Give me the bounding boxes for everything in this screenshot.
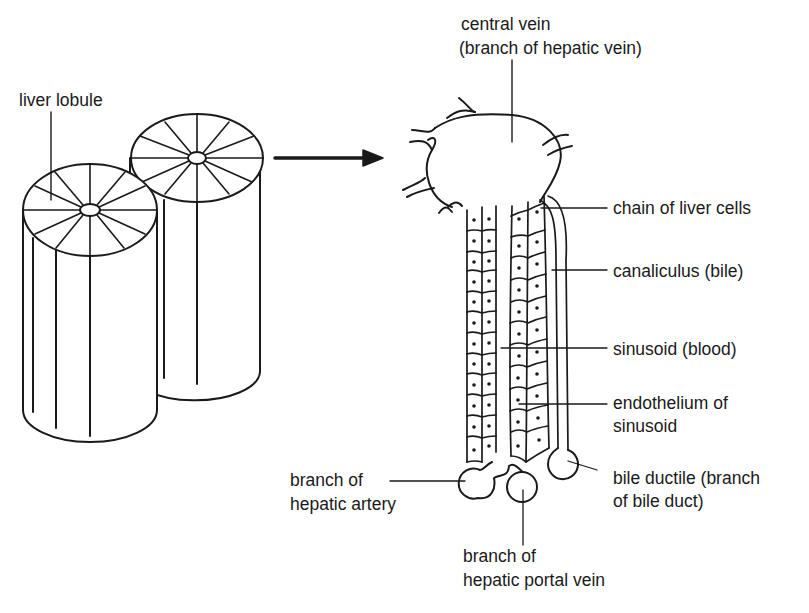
central-vein-label: central vein [461, 14, 551, 35]
canaliculus-label: canaliculus (bile) [613, 261, 743, 282]
endothelium-label: endothelium of [613, 393, 728, 414]
central-vein-sublabel: (branch of hepatic vein) [459, 38, 642, 59]
central-vein [403, 98, 572, 213]
sinusoid-label: sinusoid (blood) [613, 339, 737, 360]
arrow-right-icon [275, 150, 383, 166]
liver-lobule-label: liver lobule [19, 90, 103, 111]
front-lobule-cylinder [23, 164, 157, 442]
endothelium-sublabel: sinusoid [613, 416, 677, 437]
bile-ductile-leader-line [568, 461, 597, 470]
bile-ductile-circle [548, 448, 578, 479]
right-cell-chain [510, 196, 549, 462]
hepatic-artery-sublabel: hepatic artery [290, 494, 396, 515]
bile-ductile-sublabel: of bile duct) [613, 491, 703, 512]
portal-vein-sublabel: hepatic portal vein [463, 570, 605, 591]
portal-vein-label: branch of [463, 546, 536, 567]
left-cell-chain [467, 206, 496, 462]
hepatic-portal-vein-branch [507, 472, 537, 502]
liver-diagram [0, 0, 809, 613]
chain-of-liver-cells-label: chain of liver cells [613, 198, 751, 219]
hepatic-artery-label: branch of [290, 470, 363, 491]
bile-ductile-label: bile ductile (branch [613, 468, 760, 489]
